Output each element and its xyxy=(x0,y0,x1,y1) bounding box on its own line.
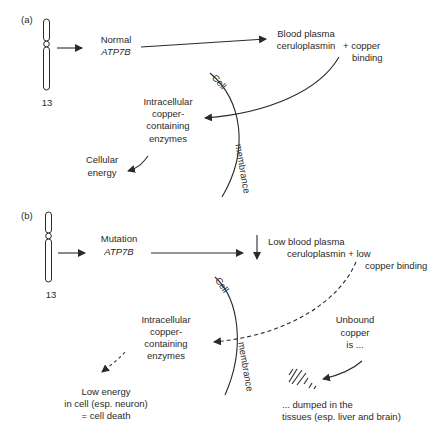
arrow-unbound-to-tissues xyxy=(323,361,362,379)
dumped-line1: ... dumped in the xyxy=(282,399,353,412)
energy-line1: Cellular xyxy=(76,154,128,167)
death-line3: = cell death xyxy=(56,410,156,423)
enzymes-line1: Intracellular xyxy=(136,96,200,109)
enzymes-line3: containing xyxy=(134,338,198,351)
plasma-line1: Low blood plasma xyxy=(268,236,345,249)
enzymes-line4: enzymes xyxy=(136,133,200,146)
arrow-enzymes-to-energy xyxy=(128,156,148,171)
arrow-enzymes-to-death-dashed xyxy=(102,352,125,372)
copper-line2: binding xyxy=(352,52,383,65)
plasma-line3: copper binding xyxy=(365,260,427,273)
copper-deposit-hatch-icon xyxy=(289,369,316,389)
plasma-line2: ceruloplasmin xyxy=(270,40,342,53)
gene-status: Normal xyxy=(94,34,138,47)
plasma-line2: ceruloplasmin + low xyxy=(287,248,371,261)
cell-membrane-arc xyxy=(215,277,237,395)
unbound-line3: is ... xyxy=(330,339,380,352)
chromosome-number: 13 xyxy=(43,289,59,302)
dumped-line2: tissues (esp. liver and brain) xyxy=(282,411,401,424)
panel-label-b: (b) xyxy=(21,210,33,223)
death-line1: Low energy xyxy=(56,386,156,399)
enzymes-line4: enzymes xyxy=(134,350,198,363)
plasma-line1: Blood plasma xyxy=(270,28,342,41)
chromosome-icon xyxy=(44,19,50,90)
copper-line1: + copper xyxy=(343,40,380,53)
enzymes-line2: copper- xyxy=(134,326,198,339)
gene-status: Mutation xyxy=(94,233,144,246)
unbound-line2: copper xyxy=(330,327,380,340)
enzymes-line3: containing xyxy=(136,120,200,133)
enzymes-line1: Intracellular xyxy=(134,314,198,327)
chromosome-number: 13 xyxy=(39,97,55,110)
wilson-disease-diagram xyxy=(0,0,445,442)
unbound-line1: Unbound xyxy=(330,314,380,327)
energy-line2: energy xyxy=(76,167,128,180)
enzymes-line2: copper- xyxy=(136,108,200,121)
chromosome-icon xyxy=(46,212,52,282)
gene-name: ATP7B xyxy=(94,46,138,59)
panel-label-a: (a) xyxy=(21,14,33,27)
cell-membrane-arc xyxy=(210,73,239,197)
gene-name: ATP7B xyxy=(94,246,144,259)
arrow-gene-to-plasma xyxy=(141,39,266,47)
death-line2: in cell (esp. neuron) xyxy=(56,398,156,411)
